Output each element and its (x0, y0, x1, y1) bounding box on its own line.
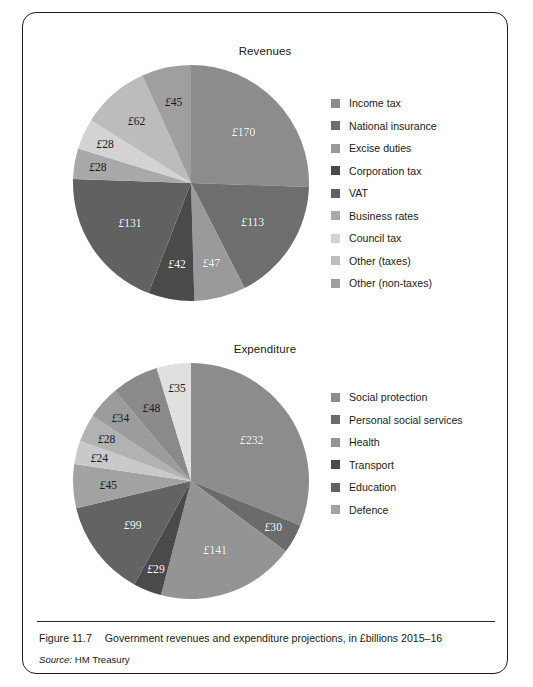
revenues-legend: Income taxNational insuranceExcise dutie… (331, 97, 437, 300)
legend-swatch-icon (331, 415, 340, 424)
legend-item-label: Personal social services (349, 414, 463, 426)
expenditure-pie-chart: £232£30£141£29£99£45£24£28£34£48£35 (71, 361, 311, 601)
figure-caption-text: Government revenues and expenditure proj… (105, 632, 442, 644)
expenditure-legend: Social protectionPersonal social service… (331, 391, 463, 526)
legend-swatch-icon (331, 189, 340, 198)
caption-divider (37, 621, 495, 622)
legend-swatch-icon (331, 256, 340, 265)
legend-item[interactable]: VAT (331, 187, 437, 199)
legend-swatch-icon (331, 144, 340, 153)
legend-item[interactable]: Excise duties (331, 142, 437, 154)
legend-item[interactable]: Social protection (331, 391, 463, 403)
expenditure-pie-svg (71, 361, 311, 601)
legend-item-label: Other (taxes) (349, 255, 411, 267)
legend-item-label: Social protection (349, 391, 427, 403)
legend-item[interactable]: Personal social services (331, 414, 463, 426)
legend-item-label: Excise duties (349, 142, 411, 154)
legend-item-label: Health (349, 436, 380, 448)
legend-swatch-icon (331, 438, 340, 447)
pie-slice[interactable] (191, 65, 309, 187)
legend-swatch-icon (331, 279, 340, 288)
legend-item-label: Other (non-taxes) (349, 277, 432, 289)
legend-item-label: Council tax (349, 232, 401, 244)
legend-item[interactable]: Other (non-taxes) (331, 277, 437, 289)
legend-swatch-icon (331, 211, 340, 220)
figure-caption: Figure 11.7Government revenues and expen… (39, 632, 442, 644)
legend-item[interactable]: Corporation tax (331, 165, 437, 177)
source-value: HM Treasury (75, 654, 130, 665)
legend-item[interactable]: Business rates (331, 210, 437, 222)
expenditure-chart-title: Expenditure (23, 343, 507, 355)
legend-item[interactable]: Health (331, 436, 463, 448)
legend-swatch-icon (331, 121, 340, 130)
legend-item-label: Corporation tax (349, 165, 421, 177)
legend-item-label: Income tax (349, 97, 401, 109)
legend-item-label: Education (349, 481, 396, 493)
legend-swatch-icon (331, 166, 340, 175)
legend-item[interactable]: Transport (331, 459, 463, 471)
legend-item-label: Transport (349, 459, 394, 471)
legend-item[interactable]: Education (331, 481, 463, 493)
legend-swatch-icon (331, 99, 340, 108)
figure-card: Revenues £170£113£47£42£131£28£28£62£45 … (22, 12, 508, 674)
figure-source: Source: HM Treasury (39, 654, 130, 665)
revenues-pie-svg (71, 63, 311, 303)
legend-swatch-icon (331, 234, 340, 243)
legend-item[interactable]: Council tax (331, 232, 437, 244)
legend-item[interactable]: Income tax (331, 97, 437, 109)
legend-item[interactable]: Other (taxes) (331, 255, 437, 267)
legend-item-label: Business rates (349, 210, 418, 222)
source-label: Source: (39, 654, 72, 665)
legend-item[interactable]: National insurance (331, 120, 437, 132)
legend-swatch-icon (331, 393, 340, 402)
legend-item[interactable]: Defence (331, 504, 463, 516)
legend-swatch-icon (331, 505, 340, 514)
figure-number: Figure 11.7 (39, 632, 92, 644)
revenues-pie-chart: £170£113£47£42£131£28£28£62£45 (71, 63, 311, 303)
legend-swatch-icon (331, 483, 340, 492)
legend-item-label: National insurance (349, 120, 437, 132)
legend-item-label: Defence (349, 504, 388, 516)
legend-swatch-icon (331, 460, 340, 469)
legend-item-label: VAT (349, 187, 368, 199)
revenues-chart-title: Revenues (23, 45, 507, 57)
